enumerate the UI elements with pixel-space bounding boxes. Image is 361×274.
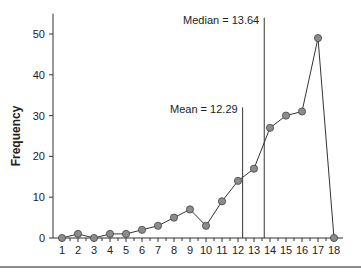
- x-tick-label: 4: [107, 244, 113, 256]
- data-point: [234, 177, 241, 184]
- data-point: [202, 222, 209, 229]
- data-point: [186, 206, 193, 213]
- y-tick-label: 20: [33, 150, 45, 162]
- data-point: [314, 34, 321, 41]
- x-tick-label: 18: [328, 244, 340, 256]
- data-series: [58, 34, 337, 241]
- data-point: [218, 198, 225, 205]
- x-tick-label: 14: [264, 244, 276, 256]
- data-point: [266, 124, 273, 131]
- data-point: [138, 226, 145, 233]
- data-point: [330, 234, 337, 241]
- y-tick-label: 50: [33, 28, 45, 40]
- x-tick-label: 12: [232, 244, 244, 256]
- series-line: [62, 38, 334, 238]
- x-tick-label: 13: [248, 244, 260, 256]
- median-label: Median = 13.64: [183, 14, 259, 26]
- x-tick-label: 9: [187, 244, 193, 256]
- data-point: [90, 234, 97, 241]
- x-tick-label: 1: [59, 244, 65, 256]
- data-point: [74, 230, 81, 237]
- x-tick-label: 5: [123, 244, 129, 256]
- x-tick-label: 11: [216, 244, 227, 256]
- mean-label: Mean = 12.29: [170, 103, 238, 115]
- x-tick-label: 7: [155, 244, 161, 256]
- data-point: [298, 108, 305, 115]
- x-tick-label: 17: [312, 244, 324, 256]
- x-tick-label: 15: [280, 244, 292, 256]
- data-point: [154, 222, 161, 229]
- data-point: [122, 230, 129, 237]
- y-tick-label: 30: [33, 110, 45, 122]
- data-point: [250, 165, 257, 172]
- x-tick-label: 8: [171, 244, 177, 256]
- y-axis-label: Frequency: [9, 105, 23, 166]
- reference-lines: Mean = 12.29Median = 13.64: [170, 14, 264, 238]
- data-point: [58, 234, 65, 241]
- frequency-line-chart: 01020304050123456789101112131415161718 M…: [0, 0, 361, 274]
- data-point: [170, 214, 177, 221]
- divider: [0, 266, 361, 268]
- axes: 01020304050123456789101112131415161718: [33, 14, 343, 256]
- x-tick-label: 6: [139, 244, 145, 256]
- x-tick-label: 10: [200, 244, 212, 256]
- data-point: [282, 112, 289, 119]
- y-tick-label: 10: [33, 191, 45, 203]
- x-tick-label: 2: [75, 244, 81, 256]
- y-tick-label: 40: [33, 69, 45, 81]
- y-tick-label: 0: [39, 232, 45, 244]
- data-point: [106, 230, 113, 237]
- x-tick-label: 16: [296, 244, 308, 256]
- x-tick-label: 3: [91, 244, 97, 256]
